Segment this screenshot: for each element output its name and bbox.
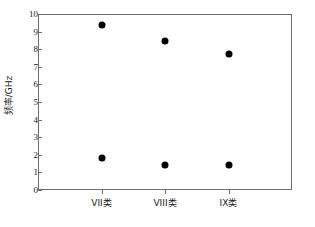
data-point	[98, 155, 105, 162]
y-axis-tick-label: 3	[22, 133, 38, 142]
y-axis-title: 频率/GHz	[0, 0, 18, 190]
x-axis-tick-mark	[229, 190, 230, 194]
y-axis-tick-mark	[38, 137, 42, 138]
x-axis-tick-mark	[165, 190, 166, 194]
data-point	[98, 21, 105, 28]
y-axis-tick-label: 10	[22, 10, 38, 19]
y-axis-tick-label: 6	[22, 80, 38, 89]
data-point	[225, 51, 232, 58]
x-axis-tick-label: VII类	[72, 196, 132, 209]
y-axis-tick-label: 5	[22, 98, 38, 107]
y-axis-tick-mark	[38, 155, 42, 156]
x-axis-tick-mark	[102, 190, 103, 194]
y-axis-tick-mark	[38, 190, 42, 191]
y-axis-tick-label: 9	[22, 27, 38, 36]
x-axis-tick-label: IX类	[199, 196, 259, 209]
y-axis-tick-mark	[38, 84, 42, 85]
y-axis-tick-mark	[38, 49, 42, 50]
y-axis-tick-mark	[38, 14, 42, 15]
y-axis-tick-mark	[38, 120, 42, 121]
data-point	[162, 162, 169, 169]
y-axis-tick-label: 0	[22, 186, 38, 195]
y-axis-tick-label: 8	[22, 45, 38, 54]
y-axis-tick-area: 012345678910	[18, 0, 38, 227]
y-axis-title-text: 频率/GHz	[3, 75, 16, 115]
x-axis-tick-label: VIII类	[135, 196, 195, 209]
y-axis-tick-label: 7	[22, 62, 38, 71]
y-axis-tick-label: 1	[22, 168, 38, 177]
y-axis-tick-label: 4	[22, 115, 38, 124]
y-axis-tick-mark	[38, 32, 42, 33]
y-axis-tick-label: 2	[22, 150, 38, 159]
data-point	[225, 162, 232, 169]
y-axis-tick-mark	[38, 172, 42, 173]
y-axis-tick-mark	[38, 67, 42, 68]
data-point	[162, 38, 169, 45]
scatter-chart-figure: 频率/GHz 012345678910 VII类VIII类IX类	[0, 0, 315, 227]
y-axis-tick-mark	[38, 102, 42, 103]
